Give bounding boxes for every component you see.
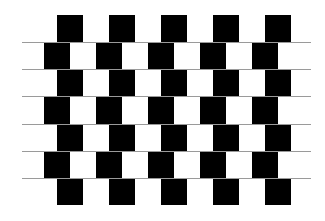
black-tile: [213, 15, 239, 42]
black-tile: [96, 152, 122, 178]
black-tile: [57, 179, 83, 205]
black-tile: [161, 179, 187, 205]
black-tile: [200, 43, 226, 69]
black-tile: [96, 97, 122, 124]
black-tile: [96, 43, 122, 69]
black-tile: [44, 152, 70, 178]
black-tile: [252, 97, 278, 124]
black-tile: [148, 97, 174, 124]
black-tile: [44, 97, 70, 124]
black-tile: [265, 70, 291, 96]
black-tile: [213, 70, 239, 96]
black-tile: [161, 70, 187, 96]
black-tile: [57, 70, 83, 96]
black-tile: [213, 125, 239, 151]
black-tile: [161, 125, 187, 151]
black-tile: [148, 43, 174, 69]
black-tile: [213, 179, 239, 205]
black-tile: [109, 179, 135, 205]
cafe-wall-figure: [0, 0, 325, 221]
black-tile: [57, 15, 83, 42]
black-tile: [109, 15, 135, 42]
black-tile: [57, 125, 83, 151]
black-tile: [252, 43, 278, 69]
black-tile: [265, 179, 291, 205]
black-tile: [148, 152, 174, 178]
black-tile: [252, 152, 278, 178]
black-tile: [265, 125, 291, 151]
black-tile: [200, 97, 226, 124]
black-tile: [161, 15, 187, 42]
black-tile: [109, 125, 135, 151]
black-tile: [109, 70, 135, 96]
black-tile: [44, 43, 70, 69]
black-tile: [200, 152, 226, 178]
black-tile: [265, 15, 291, 42]
